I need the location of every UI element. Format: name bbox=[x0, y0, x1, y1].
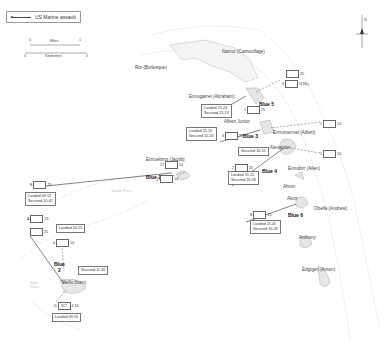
label-anthony: Anthony bbox=[299, 236, 316, 241]
unit-ennumennet: 114 bbox=[320, 120, 341, 128]
infantry-unit-icon bbox=[33, 181, 46, 189]
label-alexander: Alexander bbox=[270, 146, 291, 151]
scale-km-end: 2 bbox=[86, 54, 88, 58]
artillery-unit-icon bbox=[323, 120, 336, 128]
roi-namur-island bbox=[170, 40, 258, 82]
unit-blue-3: 325 bbox=[222, 132, 243, 140]
unit-blue-2-a: A25 bbox=[27, 215, 48, 223]
unit-namur-a: 25 bbox=[286, 70, 304, 78]
unit-blue-4: 225 bbox=[232, 164, 253, 172]
timeline-alexander: Secured 16.15 bbox=[238, 147, 269, 156]
unit-blue-1: B25 bbox=[30, 181, 51, 189]
scale-km-label: Kilometers bbox=[45, 54, 62, 58]
timeline-blue-3: Landed 15.15 Secured 15.20 bbox=[186, 127, 217, 141]
artillery-unit-icon bbox=[165, 161, 178, 169]
label-ivan-pass: Ivan Pass bbox=[30, 281, 39, 290]
label-roi: Roi (Burlesque) bbox=[135, 66, 167, 71]
unit-blue-6: B25 bbox=[250, 211, 271, 219]
timeline-blue-5: Landed 15.24 Secured 15.13 bbox=[201, 104, 232, 118]
beach-blue-6: Blue 6 bbox=[288, 213, 303, 219]
timeline-blue-6: Landed 15.45 Secured 16.26 bbox=[250, 220, 281, 234]
scout-unit-icon: SCT bbox=[58, 302, 71, 310]
unit-ennuebing-b: 214 bbox=[157, 175, 178, 183]
unit-mellu-arty: 414 bbox=[53, 239, 74, 247]
beach-blue-3: Blue 3 bbox=[243, 134, 258, 140]
unit-ennubirr: 114 bbox=[320, 150, 341, 158]
legend: US Marine assault bbox=[6, 11, 81, 23]
infantry-unit-icon bbox=[247, 106, 260, 114]
timeline-blue-2-landed: Landed 10.15 bbox=[56, 224, 85, 233]
timeline-mellu-secured: Secured 11.45 bbox=[78, 266, 108, 275]
scale-miles-label: Miles bbox=[50, 39, 58, 43]
label-ennugarret: Ennugarret (Abraham) bbox=[189, 95, 235, 100]
infantry-unit-icon bbox=[225, 132, 238, 140]
label-namur: Namur (Camouflage) bbox=[222, 50, 265, 55]
label-obella: Obella (Andrew) bbox=[314, 207, 347, 212]
unit-blue-5: 125 bbox=[244, 106, 265, 114]
infantry-unit-icon bbox=[30, 215, 43, 223]
map-base bbox=[0, 0, 389, 345]
label-jacob-pass: Jacob Pass bbox=[111, 189, 132, 193]
scale-miles-start: 0 bbox=[29, 38, 31, 42]
label-albert-junior: Albert Junior bbox=[224, 120, 250, 125]
beach-blue-2: Blue 2 bbox=[54, 262, 65, 273]
north-label: N bbox=[364, 18, 367, 22]
infantry-unit-icon bbox=[285, 80, 298, 88]
label-alvin: Alvin bbox=[287, 197, 297, 202]
scale-miles-end: 1 bbox=[79, 38, 81, 42]
infantry-unit-icon bbox=[235, 164, 248, 172]
scale-km-start: 0 bbox=[24, 54, 26, 58]
unit-namur-b: 31(18)+ bbox=[282, 80, 310, 88]
assault-arrow-icon bbox=[11, 17, 31, 18]
label-ennubirr: Ennubirr (Allen) bbox=[288, 167, 320, 172]
artillery-unit-icon bbox=[56, 239, 69, 247]
legend-label: US Marine assault bbox=[35, 14, 76, 20]
infantry-unit-icon bbox=[253, 211, 266, 219]
label-mellu: Mellu (Ivan) bbox=[62, 281, 86, 286]
beach-blue-4: Blue 4 bbox=[262, 169, 277, 175]
unit-blue-2-b: 25 bbox=[30, 228, 48, 236]
artillery-unit-icon bbox=[323, 150, 336, 158]
infantry-unit-icon bbox=[30, 228, 43, 236]
timeline-mellu-landed: Landed 09.55 bbox=[52, 313, 81, 322]
artillery-unit-icon bbox=[160, 175, 173, 183]
infantry-unit-icon bbox=[286, 70, 299, 78]
unit-mellu-sct: DSCT4 16 bbox=[54, 302, 79, 310]
label-ahron: Ahron bbox=[283, 185, 295, 190]
kwajalein-assault-map: US Marine assault 0 Miles 1 0 Kilometers… bbox=[0, 0, 389, 345]
label-edgigen: Edgigen (Anton) bbox=[302, 268, 335, 273]
timeline-blue-1: Landed 09.52 Secured 10.42 bbox=[25, 192, 56, 206]
unit-ennuebing-a: 1714 bbox=[160, 161, 183, 169]
timeline-blue-4: Landed 15.15 Secured 16.28 bbox=[228, 171, 259, 185]
label-ennumennet: Ennumennet (Albert) bbox=[273, 131, 315, 136]
